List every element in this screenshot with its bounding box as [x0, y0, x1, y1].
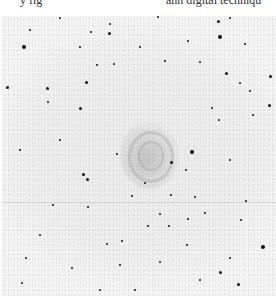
- star: [21, 282, 23, 284]
- star: [39, 234, 41, 236]
- star: [6, 86, 9, 89]
- star: [194, 196, 196, 198]
- star: [144, 182, 146, 184]
- star: [79, 107, 82, 110]
- star: [119, 264, 121, 266]
- star: [99, 289, 101, 291]
- star: [268, 104, 271, 107]
- star: [87, 206, 89, 208]
- star: [147, 225, 149, 227]
- star: [25, 257, 27, 259]
- star: [211, 107, 213, 109]
- star: [159, 213, 161, 215]
- star: [52, 204, 54, 206]
- star: [113, 63, 115, 65]
- star: [225, 72, 228, 75]
- star: [261, 245, 265, 249]
- star: [269, 75, 272, 78]
- star: [186, 244, 188, 246]
- star: [121, 240, 123, 242]
- star: [108, 32, 111, 35]
- star: [229, 17, 231, 19]
- star: [219, 271, 222, 274]
- star: [82, 173, 85, 176]
- spiral-galaxy: [120, 121, 180, 189]
- star: [29, 29, 31, 31]
- star: [170, 161, 173, 164]
- star: [139, 46, 141, 48]
- star: [237, 283, 240, 286]
- star: [157, 16, 159, 18]
- star: [131, 195, 133, 197]
- star: [46, 87, 49, 90]
- star: [187, 218, 189, 220]
- star: [170, 194, 172, 196]
- galaxy-arm: [138, 141, 164, 171]
- plate-seam: [2, 202, 276, 203]
- star: [106, 243, 108, 245]
- star: [252, 114, 254, 116]
- star: [249, 90, 251, 92]
- star: [47, 101, 49, 103]
- star: [116, 153, 118, 155]
- star: [240, 219, 242, 221]
- star: [86, 178, 89, 181]
- star: [79, 46, 81, 48]
- caption-right-text: ann digital techniqu: [166, 0, 261, 7]
- caption-left-text: y fig: [20, 0, 42, 7]
- star: [229, 257, 231, 259]
- star: [218, 119, 220, 121]
- star: [239, 82, 241, 84]
- star: [218, 35, 222, 39]
- star: [96, 64, 98, 66]
- star: [59, 139, 61, 141]
- star: [168, 225, 170, 227]
- star: [109, 23, 111, 25]
- star: [199, 61, 201, 63]
- star: [85, 81, 88, 84]
- star: [204, 212, 206, 214]
- star: [90, 31, 92, 33]
- star: [164, 60, 166, 62]
- star: [217, 20, 220, 23]
- star: [134, 289, 136, 291]
- star: [71, 267, 73, 269]
- star: [19, 149, 21, 151]
- star: [244, 43, 246, 45]
- star: [187, 40, 189, 42]
- star: [159, 261, 161, 263]
- star: [199, 279, 201, 281]
- star: [59, 17, 61, 19]
- star: [245, 200, 247, 202]
- caption-text-fragment: y fig ann digital techniqu: [0, 0, 276, 7]
- galaxy-photograph: [2, 16, 276, 296]
- star: [22, 45, 26, 49]
- star: [190, 150, 194, 154]
- star: [229, 159, 231, 161]
- star: [185, 169, 187, 171]
